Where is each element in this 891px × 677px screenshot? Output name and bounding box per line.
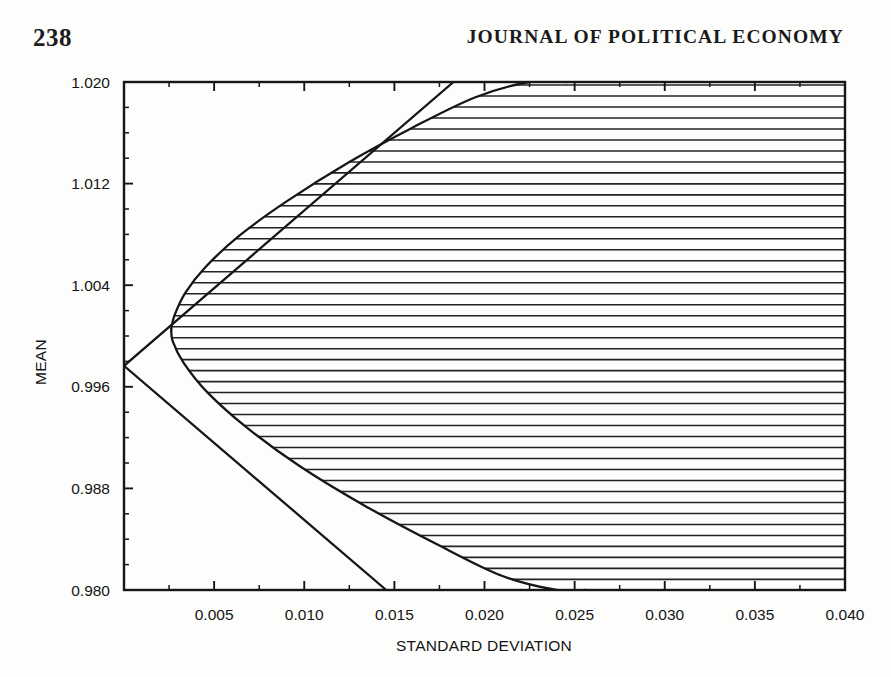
x-tick-label: 0.040 — [826, 606, 865, 623]
y-tick-label: 1.004 — [71, 277, 110, 294]
y-tick-label: 1.012 — [71, 175, 110, 192]
y-tick-label: 1.020 — [71, 74, 110, 91]
journal-page: 238 JOURNAL OF POLITICAL ECONOMY 0.9800.… — [0, 0, 891, 677]
y-tick-label: 0.988 — [71, 480, 110, 497]
lower-ray — [124, 366, 386, 590]
y-axis-title: MEAN — [32, 339, 49, 385]
x-tick-label: 0.020 — [465, 606, 504, 623]
chart-canvas: 0.9800.9880.9961.0041.0121.020 0.0050.01… — [0, 0, 891, 677]
x-axis-tick-labels: 0.0050.0100.0150.0200.0250.0300.0350.040 — [195, 606, 865, 623]
y-tick-label: 0.996 — [71, 378, 110, 395]
x-axis-title: STANDARD DEVIATION — [396, 637, 572, 654]
upper-ray — [124, 82, 453, 366]
x-tick-label: 0.015 — [375, 606, 414, 623]
mean-standard-deviation-figure: 0.9800.9880.9961.0041.0121.020 0.0050.01… — [0, 0, 891, 677]
y-axis-tick-labels: 0.9800.9880.9961.0041.0121.020 — [71, 74, 110, 599]
x-tick-label: 0.010 — [285, 606, 324, 623]
frontier-series-group — [124, 81, 585, 591]
x-tick-label: 0.005 — [195, 606, 234, 623]
x-tick-label: 0.025 — [555, 606, 594, 623]
x-tick-label: 0.035 — [735, 606, 774, 623]
y-tick-label: 0.980 — [71, 582, 110, 599]
hatched-feasible-region — [172, 85, 845, 579]
x-tick-label: 0.030 — [645, 606, 684, 623]
